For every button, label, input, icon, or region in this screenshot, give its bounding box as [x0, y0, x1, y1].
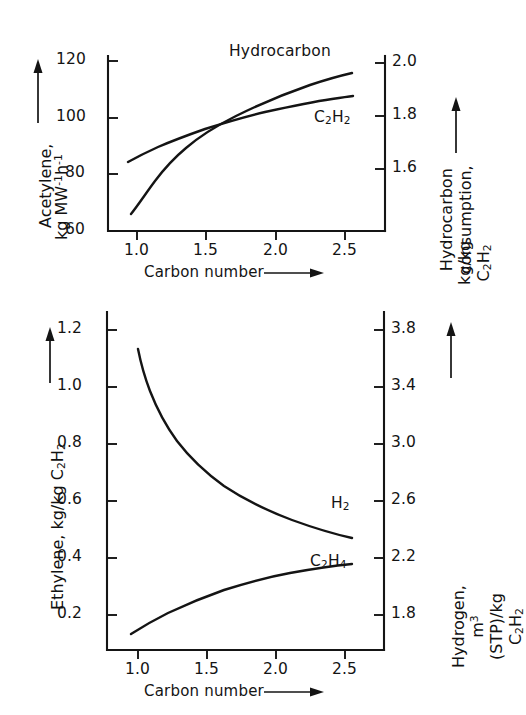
bottom-x-ticklabel-1-0: 1.0 — [125, 662, 150, 678]
curve-label-c2h2-sub1: 2 — [325, 114, 332, 126]
curve-label-h2: H2 — [331, 496, 350, 512]
bottom-left-axis-title-sub2: 2 — [55, 443, 68, 450]
top-left-axis — [108, 56, 385, 231]
curve-label-h2-pre: H — [331, 494, 343, 512]
top-right-axis-unit-sub2: 2 — [481, 244, 494, 251]
top-left-axis-unit-sup2: -1 — [52, 154, 65, 165]
top-x-ticklabel-1-5: 1.5 — [193, 243, 218, 259]
top-left-axis-arrow-icon — [30, 57, 46, 127]
top-left-ticklabel-100: 100 — [56, 109, 86, 125]
curve-label-c2h2-pre: C — [314, 108, 325, 126]
bottom-left-axis — [107, 312, 384, 650]
bottom-right-ticklabel-3-4: 3.4 — [391, 378, 416, 394]
top-x-ticklabel-2-5: 2.5 — [332, 243, 357, 259]
curve-label-hydrocarbon: Hydrocarbon — [229, 44, 331, 60]
bottom-right-ticklabel-3-0: 3.0 — [391, 435, 416, 451]
bottom-left-axis-title-sub1: 2 — [55, 462, 68, 469]
curve-c2h4 — [131, 564, 352, 634]
top-left-axis-title-line2: kg MW-1h-1 — [52, 154, 71, 240]
top-left-ticklabel-120: 120 — [56, 52, 86, 68]
top-x-ticklabel-1-0: 1.0 — [124, 243, 149, 259]
curve-label-c2h4-mid: H — [328, 552, 340, 570]
bottom-x-ticklabel-2-5: 2.5 — [332, 662, 357, 678]
bottom-right-axis-title: Hydrogen, m3 (STP)/kg C2H2 — [449, 585, 526, 668]
bottom-left-axis-title: Ethylene, kg/kg C2H2 — [48, 443, 68, 610]
top-x-ticklabel-2-0: 2.0 — [263, 243, 288, 259]
bottom-xaxis-title: Carbon number — [144, 684, 264, 699]
top-xaxis-arrow-icon — [262, 264, 328, 280]
bottom-xaxis-arrow-icon — [262, 683, 328, 699]
top-left-axis-unit-mid: h — [52, 165, 71, 175]
bottom-right-axis-arrow-icon — [443, 320, 459, 382]
curve-label-h2-sub: 2 — [343, 500, 350, 512]
top-right-axis-title-line2: kg/kg C2H2 — [455, 241, 494, 285]
top-left-axis-unit-pre: kg MW — [52, 186, 71, 240]
curve-label-c2h2: C2H2 — [314, 110, 351, 126]
top-right-ticklabel-1-6: 1.6 — [392, 160, 417, 176]
bottom-left-axis-arrow-icon — [42, 325, 58, 387]
curve-label-c2h2-sub2: 2 — [344, 114, 351, 126]
bottom-right-axis-title-sub2: 2 — [513, 608, 526, 615]
bottom-x-ticklabel-2-0: 2.0 — [263, 662, 288, 678]
top-right-axis-arrow-icon — [448, 95, 464, 157]
bottom-left-axis-title-pre: Ethylene, kg/kg C — [48, 469, 67, 610]
bottom-left-ticklabel-1-2: 1.2 — [57, 321, 82, 337]
curve-label-c2h2-mid: H — [332, 108, 344, 126]
bottom-right-ticklabel-2-2: 2.2 — [391, 549, 416, 565]
curve-h2 — [138, 349, 352, 538]
curve-c2h2 — [128, 96, 353, 162]
bottom-right-ticklabel-1-8: 1.8 — [391, 606, 416, 622]
top-xaxis-title: Carbon number — [144, 265, 264, 280]
bottom-right-axis-title-sup: 3 — [468, 615, 481, 622]
curve-label-c2h4-sub1: 2 — [321, 558, 328, 570]
bottom-left-ticklabel-1-0: 1.0 — [57, 378, 82, 394]
curve-label-c2h4-pre: C — [310, 552, 321, 570]
top-right-axis-unit-sub1: 2 — [481, 263, 494, 270]
bottom-right-ticklabel-2-6: 2.6 — [391, 492, 416, 508]
curve-label-c2h4: C2H4 — [310, 554, 347, 570]
top-left-axis-unit-sup1: -1 — [52, 175, 65, 186]
bottom-left-axis-title-mid: H — [48, 450, 67, 462]
curve-label-c2h4-sub2: 4 — [340, 558, 347, 570]
bottom-x-ticklabel-1-5: 1.5 — [194, 662, 219, 678]
top-right-axis-unit-mid: H — [474, 251, 493, 263]
bottom-right-axis-title-sub1: 2 — [513, 627, 526, 634]
top-right-ticklabel-1-8: 1.8 — [392, 107, 417, 123]
bottom-right-axis-title-pre: Hydrogen, m — [449, 585, 487, 668]
bottom-right-ticklabel-3-8: 3.8 — [391, 321, 416, 337]
chart-panel-bottom: 1.2 1.0 0.8 0.6 0.4 0.2 3.8 3.4 3.0 2.6 … — [0, 290, 491, 715]
bottom-right-axis-title-mid2: H — [506, 615, 525, 627]
top-right-ticklabel-2-0: 2.0 — [392, 54, 417, 70]
chart-panel-top: 120 100 80 60 2.0 1.8 1.6 1.0 1.5 2.0 2.… — [0, 0, 491, 290]
